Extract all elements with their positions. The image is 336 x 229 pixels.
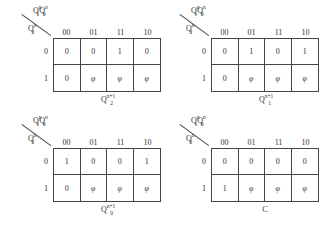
kmap-cell: 0 (212, 65, 239, 91)
kmap-cell: 1 (134, 149, 161, 175)
kmap-cell: φ (239, 65, 266, 91)
row-header: 0 (42, 157, 50, 166)
kmap-cell: φ (107, 65, 134, 91)
column-variables-label: Qn1Qn0 (33, 116, 46, 125)
kmap-4: Qn1Qn0Qn2000111100100001φφφC (158, 110, 326, 224)
column-header: 00 (211, 138, 238, 147)
kmap-caption: C (211, 205, 319, 214)
kmap-cell: 1 (107, 39, 134, 65)
column-header: 10 (292, 28, 319, 37)
kmap-cell: φ (292, 175, 319, 201)
column-header: 10 (134, 28, 161, 37)
row-header: 1 (200, 74, 208, 83)
kmap-cell: φ (134, 65, 161, 91)
kmap-caption: Qn+11 (211, 95, 319, 104)
kmap-cell: 0 (54, 65, 81, 91)
row-header: 0 (42, 47, 50, 56)
column-header: 01 (238, 138, 265, 147)
kmap-cell: 0 (212, 149, 239, 175)
column-header: 11 (107, 28, 134, 37)
kmap-cell: 0 (239, 149, 266, 175)
kmap-2: Qn1Qn0Qn2000111100101010φφφQn+11 (158, 0, 326, 114)
row-variable-label: Qn2 (28, 134, 34, 143)
kmap-cell: 1 (54, 149, 81, 175)
row-header: 1 (200, 184, 208, 193)
kmap-cell: 0 (107, 149, 134, 175)
kmap-cell: 1 (292, 39, 319, 65)
kmap-cell: 0 (81, 39, 108, 65)
kmap-cell: φ (81, 175, 108, 201)
kmap-1: Qn1Qn0Qn2000111100100100φφφQn+12 (0, 0, 168, 114)
kmap-cell: 0 (265, 39, 292, 65)
kmap-cell: φ (81, 65, 108, 91)
kmap-cell: 0 (81, 149, 108, 175)
row-variable-label: Qn2 (186, 24, 192, 33)
kmap-caption: Qn+12 (53, 95, 161, 104)
column-header: 01 (80, 28, 107, 37)
row-header: 1 (42, 184, 50, 193)
column-header: 10 (292, 138, 319, 147)
kmap-cell: φ (292, 65, 319, 91)
column-header: 11 (107, 138, 134, 147)
kmap-grid: 10010φφφ (53, 148, 161, 202)
column-variables-label: Qn1Qn0 (33, 6, 46, 15)
column-header: 10 (134, 138, 161, 147)
column-variables-label: Qn1Qn0 (191, 116, 204, 125)
column-variables-label: Qn1Qn0 (191, 6, 204, 15)
row-variable-label: Qn2 (186, 134, 192, 143)
column-header: 01 (238, 28, 265, 37)
kmap-cell: φ (265, 65, 292, 91)
kmap-caption: Qn+10 (53, 205, 161, 214)
kmap-grid: 00100φφφ (53, 38, 161, 92)
column-header: 00 (53, 138, 80, 147)
kmap-cell: 0 (265, 149, 292, 175)
kmap-cell: 0 (134, 39, 161, 65)
column-header: 01 (80, 138, 107, 147)
column-header: 11 (265, 28, 292, 37)
kmap-cell: 0 (54, 39, 81, 65)
kmap-cell: 0 (54, 175, 81, 201)
column-header: 00 (211, 28, 238, 37)
kmap-cell: φ (107, 175, 134, 201)
kmap-cell: φ (134, 175, 161, 201)
kmap-grid: 01010φφφ (211, 38, 319, 92)
row-header: 0 (200, 157, 208, 166)
row-header: 1 (42, 74, 50, 83)
row-variable-label: Qn2 (28, 24, 34, 33)
kmap-grid: 00001φφφ (211, 148, 319, 202)
column-header: 11 (265, 138, 292, 147)
kmap-cell: φ (265, 175, 292, 201)
kmap-cell: 0 (292, 149, 319, 175)
kmap-3: Qn1Qn0Qn2000111100110010φφφQn+10 (0, 110, 168, 224)
kmap-cell: 1 (239, 39, 266, 65)
kmap-cell: 0 (212, 39, 239, 65)
row-header: 0 (200, 47, 208, 56)
column-header: 00 (53, 28, 80, 37)
kmap-cell: 1 (212, 175, 239, 201)
kmap-cell: φ (239, 175, 266, 201)
